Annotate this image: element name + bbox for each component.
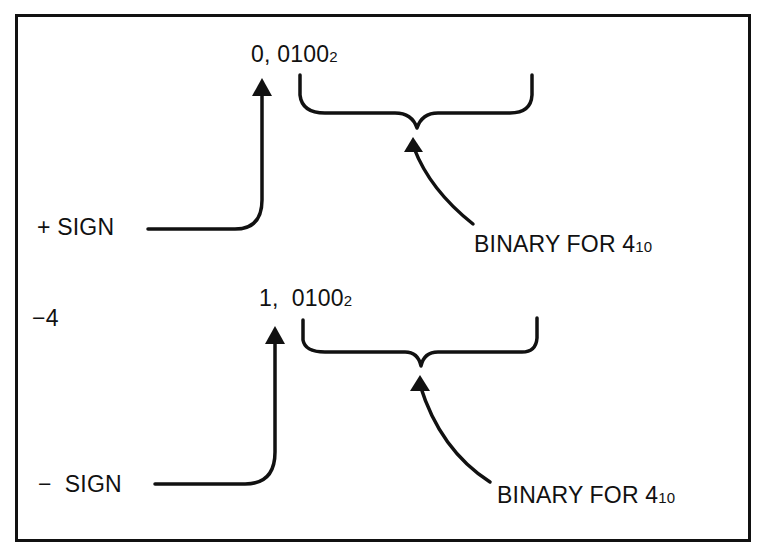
- negative-binary-representation: 1, 01002: [259, 287, 352, 310]
- bottom-brace: [303, 318, 537, 366]
- minus-sign-label: − SIGN: [38, 473, 122, 496]
- positive-magnitude-label-base: 10: [635, 238, 652, 255]
- positive-sign-bit: 0,: [251, 41, 271, 67]
- plus-sign-label: + SIGN: [37, 216, 114, 239]
- positive-binary-representation: 0, 01002: [251, 43, 338, 66]
- top-binary-arrow-line: [414, 148, 473, 224]
- top-binary-arrowhead-icon: [404, 137, 423, 152]
- plus-sign-arrowhead-icon: [252, 78, 272, 96]
- bottom-binary-arrow-line: [420, 385, 490, 482]
- minus-sign-arrow-line: [155, 340, 275, 484]
- positive-magnitude-label: BINARY FOR 410: [474, 233, 652, 256]
- positive-magnitude-base: 2: [329, 48, 338, 65]
- minus-sign-arrowhead-icon: [265, 326, 285, 344]
- negative-magnitude-bits: 0100: [292, 285, 344, 311]
- bottom-binary-arrowhead-icon: [410, 375, 430, 391]
- negative-magnitude-label-text: BINARY FOR 4: [497, 482, 658, 508]
- negative-sign-bit: 1,: [259, 285, 279, 311]
- negative-magnitude-label-base: 10: [658, 489, 675, 506]
- negative-magnitude-label: BINARY FOR 410: [497, 484, 675, 507]
- negative-value-label: −4: [32, 307, 59, 330]
- positive-magnitude-bits: 0100: [277, 41, 329, 67]
- plus-sign-arrow-line: [148, 92, 262, 229]
- top-brace: [300, 75, 532, 128]
- negative-magnitude-base: 2: [344, 292, 353, 309]
- positive-magnitude-label-text: BINARY FOR 4: [474, 231, 635, 257]
